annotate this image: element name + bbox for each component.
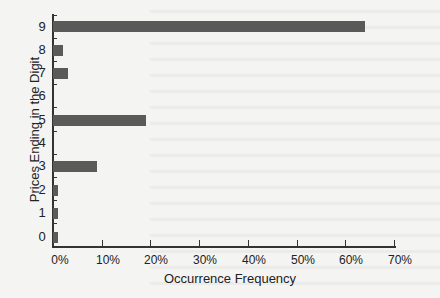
x-tick [150,240,151,246]
x-tick [345,240,346,246]
y-tick-label-0: 0 [36,230,48,244]
y-tick [52,61,57,62]
x-tick-label-30: 30% [185,253,225,267]
bar-digit-3 [53,161,97,172]
y-tick [52,177,57,178]
x-tick-label-10: 10% [88,253,128,267]
y-tick [52,154,57,155]
bar-digit-1 [53,208,58,219]
x-tick [297,240,298,246]
x-tick-label-20: 20% [136,253,176,267]
x-tick-label-50: 50% [283,253,323,267]
x-tick-label-40: 40% [234,253,274,267]
x-tick-label-70: 70% [380,253,420,267]
x-tick-label-0: 0% [40,253,80,267]
x-tick-label-60: 60% [331,253,371,267]
x-tick [102,240,103,246]
bar-digit-5 [53,115,146,126]
y-tick [52,107,57,108]
y-tick [52,15,57,16]
y-tick [52,223,57,224]
x-tick [394,240,395,246]
bar-digit-2 [53,185,58,196]
y-tick [52,200,57,201]
bar-digit-8 [53,45,63,56]
x-tick [199,240,200,246]
x-tick [248,240,249,246]
bar-digit-7 [53,68,68,79]
y-axis-title: Prices Ending in the Digit [27,30,42,230]
y-tick [52,131,57,132]
y-tick [52,84,57,85]
x-axis-line [52,246,396,248]
y-tick [52,38,57,39]
x-axis-title: Occurrence Frequency [130,271,330,286]
bar-digit-0 [53,232,58,243]
bar-digit-9 [53,21,365,32]
